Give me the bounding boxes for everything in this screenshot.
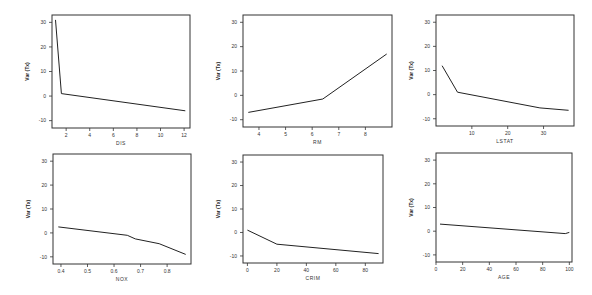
x-tick-label: 80	[540, 266, 546, 272]
y-tick-label: 30	[40, 19, 46, 25]
x-axis-label: CRIM	[306, 275, 321, 281]
x-tick-label: 0.4	[57, 268, 64, 274]
x-tick-label: 8	[136, 132, 139, 138]
y-tick-label: 10	[231, 68, 237, 74]
x-tick-label: 10	[469, 130, 475, 136]
y-tick-label: 30	[41, 158, 47, 164]
y-axis-label: Var (Tx)	[215, 61, 221, 80]
y-tick-label: 10	[231, 206, 237, 212]
x-tick-label: 0.6	[111, 268, 118, 274]
y-tick-label: 0	[234, 92, 237, 98]
y-tick-label: 20	[231, 43, 237, 49]
plot-frame	[52, 15, 190, 128]
plot-frame	[53, 154, 191, 264]
y-tick-label: 0	[427, 91, 430, 97]
y-tick-label: 10	[424, 67, 430, 73]
y-tick-label: 30	[424, 157, 430, 163]
x-tick-label: 6	[112, 132, 115, 138]
x-tick-label: 8	[364, 131, 367, 137]
y-tick-label: 30	[231, 19, 237, 25]
x-axis-label: DIS	[116, 140, 126, 146]
y-tick-label: 10	[424, 204, 430, 210]
x-tick-label: 60	[333, 267, 339, 273]
dependence-line	[442, 66, 568, 111]
x-axis-label: RM	[313, 139, 322, 145]
x-tick-label: 100	[565, 266, 574, 272]
x-axis-label: AGE	[498, 274, 510, 280]
x-tick-label: 20	[274, 267, 280, 273]
x-axis-label: NOX	[116, 276, 129, 282]
y-tick-label: 0	[234, 229, 237, 235]
y-tick-label: 0	[44, 230, 47, 236]
x-tick-label: 30	[541, 130, 547, 136]
chart-panel-age: -100102030020406080100AGEVar (Tx)	[408, 153, 574, 280]
y-axis-label: Var (Tx)	[408, 198, 414, 217]
y-axis-label: Var (Tx)	[24, 62, 30, 81]
x-tick-label: 20	[460, 266, 466, 272]
x-tick-label: 7	[337, 131, 340, 137]
chart-panel-rm: -10010203045678RMVar (Tx)	[215, 15, 392, 145]
x-tick-label: 40	[304, 267, 310, 273]
dependence-line	[247, 230, 378, 254]
partial-dependence-figure: -10010203024681012DISVar (Tx)-1001020304…	[0, 0, 592, 295]
x-tick-label: 0.7	[137, 268, 144, 274]
y-tick-label: 20	[40, 44, 46, 50]
y-tick-label: -10	[40, 254, 47, 260]
x-tick-label: 60	[513, 266, 519, 272]
x-tick-label: 80	[363, 267, 369, 273]
y-axis-label: Var (Tx)	[25, 199, 31, 218]
x-tick-label: 0	[246, 267, 249, 273]
plot-frame	[243, 155, 383, 263]
x-tick-label: 0.5	[84, 268, 91, 274]
chart-panel-nox: -1001020300.40.50.60.70.8NOXVar (Tx)	[25, 154, 191, 282]
x-tick-label: 12	[181, 132, 187, 138]
y-tick-label: 30	[424, 19, 430, 25]
x-tick-label: 2	[65, 132, 68, 138]
x-tick-label: 4	[258, 131, 261, 137]
dependence-line	[440, 224, 569, 234]
y-tick-label: 30	[231, 159, 237, 165]
chart-panel-dis: -10010203024681012DISVar (Tx)	[24, 15, 190, 146]
y-tick-label: 0	[43, 93, 46, 99]
y-tick-label: 20	[41, 182, 47, 188]
dependence-line	[248, 54, 386, 112]
x-tick-label: 20	[505, 130, 511, 136]
y-tick-label: -10	[230, 116, 237, 122]
x-tick-label: 0.8	[164, 268, 171, 274]
y-tick-label: -10	[39, 117, 46, 123]
dependence-line	[58, 227, 185, 255]
x-axis-label: LSTAT	[496, 138, 513, 144]
chart-panel-lstat: -100102030102030LSTATVar (Tx)	[408, 15, 574, 144]
y-tick-label: 20	[424, 43, 430, 49]
y-tick-label: -10	[423, 116, 430, 122]
plot-frame	[436, 153, 572, 262]
x-tick-label: 6	[311, 131, 314, 137]
y-axis-label: Var (Tx)	[408, 61, 414, 80]
y-tick-label: 20	[424, 181, 430, 187]
plot-frame	[243, 15, 392, 127]
x-tick-label: 10	[158, 132, 164, 138]
x-tick-label: 40	[487, 266, 493, 272]
y-tick-label: -10	[423, 252, 430, 258]
chart-panel-crim: -100102030020406080CRIMVar (Tx)	[215, 155, 383, 281]
y-tick-label: 0	[427, 228, 430, 234]
dependence-line	[56, 20, 186, 111]
x-tick-label: 0	[435, 266, 438, 272]
y-tick-label: 10	[40, 68, 46, 74]
y-axis-label: Var (Tx)	[215, 199, 221, 218]
y-tick-label: 20	[231, 182, 237, 188]
x-tick-label: 5	[284, 131, 287, 137]
y-tick-label: 10	[41, 206, 47, 212]
y-tick-label: -10	[230, 253, 237, 259]
x-tick-label: 4	[88, 132, 91, 138]
